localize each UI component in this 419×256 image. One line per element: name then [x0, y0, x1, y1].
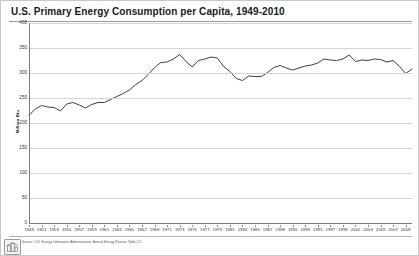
x-tick-label: 1953 [49, 228, 59, 232]
x-axis-tick-labels: 1949195119531955195719591961196319651967… [29, 225, 412, 235]
title-divider [9, 21, 412, 22]
x-tick-label: 1965 [125, 228, 135, 232]
eia-logo-icon [4, 239, 21, 255]
gridline-y [29, 48, 412, 49]
y-tick-label: 100 [3, 171, 27, 176]
x-tick-label: 1967 [137, 228, 147, 232]
x-tick-label: 1963 [112, 228, 122, 232]
x-tick-label: 1951 [37, 228, 47, 232]
x-tick-label: 2005 [376, 228, 386, 232]
x-tick-label: 1985 [250, 228, 260, 232]
x-tick-label: 1975 [187, 228, 197, 232]
x-tick-label: 1989 [275, 228, 285, 232]
y-tick-label: 50 [3, 196, 27, 201]
y-axis-title: Million Btu [15, 102, 20, 142]
y-tick-label: 250 [3, 96, 27, 101]
x-tick-label: 1991 [288, 228, 298, 232]
gridline-y [29, 73, 412, 74]
y-tick-label: 150 [3, 146, 27, 151]
x-tick-label: 1949 [24, 228, 34, 232]
y-tick-label: 300 [3, 71, 27, 76]
x-tick-label: 2007 [388, 228, 398, 232]
x-axis-line [29, 223, 412, 224]
chart-page: U.S. Primary Energy Consumption per Capi… [0, 0, 419, 256]
x-tick-label: 1973 [175, 228, 185, 232]
y-tick-label: 350 [3, 46, 27, 51]
x-tick-label: 2003 [363, 228, 373, 232]
x-tick-label: 1955 [62, 228, 72, 232]
x-tick-label: 1957 [74, 228, 84, 232]
x-tick-label: 1981 [225, 228, 235, 232]
x-tick-label: 1995 [313, 228, 323, 232]
plot-wrapper [29, 23, 412, 223]
x-tick-label: 2001 [351, 228, 361, 232]
x-tick-label: 1997 [326, 228, 336, 232]
gridline-y [29, 198, 412, 199]
gridline-y [29, 148, 412, 149]
gridline-y [29, 123, 412, 124]
footer-divider [9, 236, 412, 237]
x-tick-label: 1971 [162, 228, 172, 232]
y-tick-label: 400 [3, 21, 27, 26]
x-tick-label: 1993 [300, 228, 310, 232]
plot-area [29, 23, 412, 223]
x-tick-label: 1999 [338, 228, 348, 232]
x-tick-label: 1983 [238, 228, 248, 232]
y-tick-label: 0 [3, 221, 27, 226]
gridline-y [29, 98, 412, 99]
x-tick-label: 1987 [263, 228, 273, 232]
gridline-y [29, 23, 412, 24]
x-tick-label: 1959 [87, 228, 97, 232]
x-tick-label: 1977 [200, 228, 210, 232]
x-tick-label: 1961 [100, 228, 110, 232]
chart-title: U.S. Primary Energy Consumption per Capi… [11, 6, 285, 17]
y-axis-line [29, 23, 30, 224]
gridline-y [29, 173, 412, 174]
x-tick-label: 2009 [401, 228, 411, 232]
x-tick-label: 1969 [150, 228, 160, 232]
x-tick-label: 1979 [213, 228, 223, 232]
source-note: Source: U.S. Energy Information Administ… [22, 241, 141, 245]
